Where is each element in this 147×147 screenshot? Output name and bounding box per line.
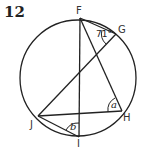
point-label-I: I	[77, 138, 80, 147]
chord-JH	[38, 111, 122, 116]
angle-label-71: 71°	[96, 29, 112, 39]
circle-geometry-diagram: 71° a b F G H J I	[0, 0, 147, 147]
chord-FI	[79, 18, 80, 137]
point-label-H: H	[123, 112, 131, 123]
angle-label-b: b	[70, 121, 76, 132]
point-label-F: F	[76, 5, 82, 16]
chord-GJ	[38, 34, 116, 116]
point-label-G: G	[118, 24, 126, 35]
point-label-J: J	[29, 119, 33, 130]
circle	[20, 20, 136, 136]
angle-label-a: a	[111, 99, 117, 110]
